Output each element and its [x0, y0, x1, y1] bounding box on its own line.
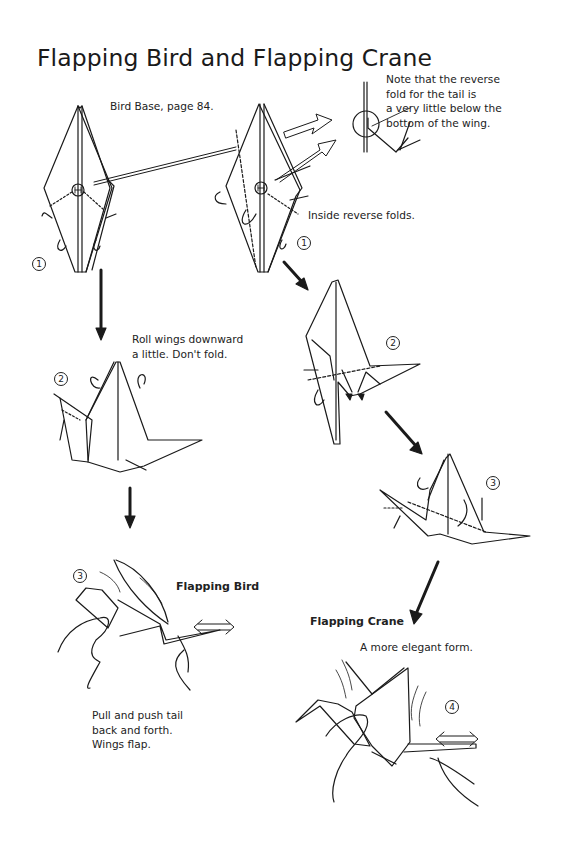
tail-reverse-fold-note: Note that the reverse fold for the tail …	[386, 72, 502, 130]
step-number-crane-4: 4	[445, 700, 459, 714]
crane-step2-diagram	[304, 280, 420, 444]
pull-push-tail-caption: Pull and push tail back and forth. Wings…	[92, 708, 183, 752]
pull-line-3: Wings flap.	[92, 737, 183, 752]
step-number-bird-3: 3	[73, 569, 87, 583]
elegant-form-caption: A more elegant form.	[360, 640, 473, 655]
bird-step2-diagram	[54, 362, 202, 472]
note-line-2: fold for the tail is	[386, 87, 502, 102]
pull-line-2: back and forth.	[92, 723, 183, 738]
step-number-crane-2: 2	[386, 336, 400, 350]
pull-line-1: Pull and push tail	[92, 708, 183, 723]
inside-reverse-folds-caption: Inside reverse folds.	[308, 208, 415, 223]
note-line-3: a very little below the	[386, 101, 502, 116]
crane-step3-diagram	[380, 454, 530, 544]
step-number-crane-3: 3	[486, 476, 500, 490]
flapping-crane-label: Flapping Crane	[310, 615, 404, 630]
note-line-4: bottom of the wing.	[386, 116, 502, 131]
note-line-1: Note that the reverse	[386, 72, 502, 87]
step-number-bird-2: 2	[54, 372, 68, 386]
roll-line-1: Roll wings downward	[132, 332, 243, 347]
roll-wings-caption: Roll wings downward a little. Don't fold…	[132, 332, 243, 361]
bird-base-center-diagram	[215, 104, 310, 272]
step-number-bird-1: 1	[32, 257, 46, 271]
flapping-bird-label: Flapping Bird	[176, 580, 259, 595]
flapping-crane-diagram	[296, 660, 478, 806]
step-number-crane-1: 1	[297, 236, 311, 250]
bird-base-left-diagram	[42, 106, 116, 272]
roll-line-2: a little. Don't fold.	[132, 347, 243, 362]
bird-base-caption: Bird Base, page 84.	[110, 99, 214, 114]
